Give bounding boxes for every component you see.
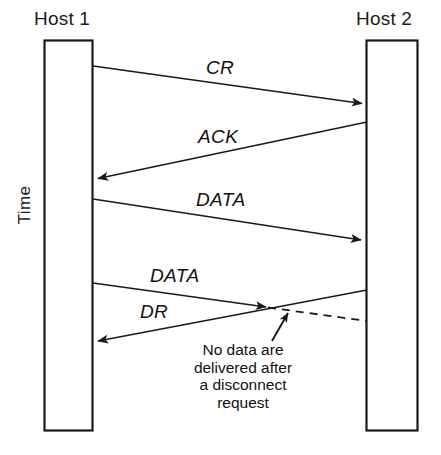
lifeline-label-host2: Host 2 xyxy=(356,8,412,30)
message-label-cr: CR xyxy=(206,57,234,79)
diagram-canvas: Host 1 Host 2 Time CR ACK DATA DATA DR N… xyxy=(0,0,441,455)
undelivered-data-dashed-line xyxy=(268,308,367,322)
annotation-line-2: delivered after xyxy=(168,359,318,377)
lifeline-box-host1 xyxy=(45,41,93,431)
annotation-line-1: No data are xyxy=(168,341,318,359)
time-axis-label: Time xyxy=(15,175,35,235)
message-label-ack: ACK xyxy=(198,126,238,148)
annotation-line-3: a disconnect xyxy=(168,376,318,394)
annotation-line-4: request xyxy=(168,394,318,412)
message-label-data-1: DATA xyxy=(196,189,245,211)
annotation-pointer-arrow xyxy=(272,313,288,341)
annotation-text: No data are delivered after a disconnect… xyxy=(168,341,318,411)
lifeline-box-host2 xyxy=(367,41,418,431)
lifeline-label-host1: Host 1 xyxy=(34,8,90,30)
message-label-data-2: DATA xyxy=(150,265,199,287)
message-label-dr: DR xyxy=(140,301,168,323)
